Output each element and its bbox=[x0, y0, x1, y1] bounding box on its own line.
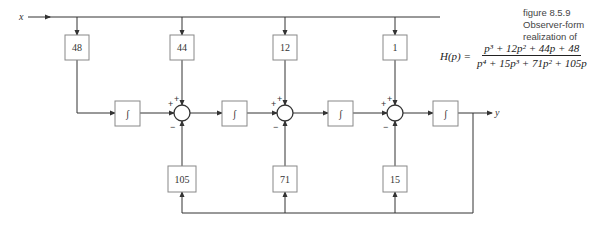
svg-text:1: 1 bbox=[393, 42, 398, 53]
svg-text:48: 48 bbox=[72, 42, 82, 53]
feedback-gain-15: 15 bbox=[383, 166, 407, 192]
svg-text:+: + bbox=[174, 94, 179, 104]
svg-text:−: − bbox=[383, 122, 388, 132]
forward-gain-44: 44 bbox=[170, 35, 194, 60]
svg-text:105: 105 bbox=[175, 174, 190, 185]
transfer-function: H(p) = p³ + 12p² + 44p + 48 p⁴ + 15p³ + … bbox=[440, 42, 589, 69]
svg-text:+: + bbox=[168, 99, 173, 109]
svg-text:+: + bbox=[381, 99, 386, 109]
svg-text:+: + bbox=[387, 94, 392, 104]
formula-denominator: p⁴ + 15p³ + 71p² + 105p bbox=[475, 56, 589, 69]
svg-text:71: 71 bbox=[280, 174, 290, 185]
feedback-gain-105: 105 bbox=[168, 166, 196, 192]
forward-gain-48: 48 bbox=[65, 35, 89, 60]
output-label: y bbox=[494, 107, 500, 118]
figure-title: Observer-form realization of bbox=[523, 19, 611, 43]
svg-text:+: + bbox=[277, 94, 282, 104]
figure-number: figure 8.5.9 bbox=[523, 7, 611, 19]
formula-lhs: H(p) = bbox=[440, 50, 471, 62]
block-diagram: 48 44 12 1 ∫ ∫ ∫ ∫ + + − + + − bbox=[0, 0, 611, 233]
svg-text:+: + bbox=[271, 99, 276, 109]
svg-text:−: − bbox=[170, 122, 175, 132]
integrator-3: ∫ bbox=[328, 101, 353, 126]
formula-numerator: p³ + 12p² + 44p + 48 bbox=[482, 42, 581, 56]
integrator-2: ∫ bbox=[222, 101, 247, 126]
forward-gain-1: 1 bbox=[383, 35, 407, 60]
figure-caption: figure 8.5.9 Observer-form realization o… bbox=[523, 7, 611, 43]
integrator-4: ∫ bbox=[433, 101, 458, 126]
svg-text:−: − bbox=[273, 122, 278, 132]
input-label: x bbox=[18, 11, 24, 22]
feedback-gain-71: 71 bbox=[273, 166, 297, 192]
integrator-1: ∫ bbox=[115, 101, 140, 126]
forward-gain-12: 12 bbox=[273, 35, 297, 60]
svg-text:12: 12 bbox=[280, 42, 290, 53]
svg-text:15: 15 bbox=[390, 174, 400, 185]
formula-fraction: p³ + 12p² + 44p + 48 p⁴ + 15p³ + 71p² + … bbox=[475, 42, 589, 69]
svg-text:44: 44 bbox=[177, 42, 187, 53]
